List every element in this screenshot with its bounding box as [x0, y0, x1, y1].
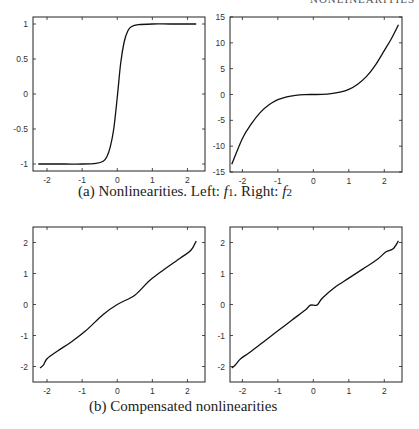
y-tick-label: 0	[23, 89, 28, 99]
plot-f1: -2-1012-1-0.500.51	[0, 0, 210, 185]
chart-f1: -2-1012-1-0.500.51	[0, 0, 210, 185]
x-tick-label: -2	[43, 175, 51, 185]
y-tick-label: 0.5	[16, 54, 28, 64]
caption-a: (a) Nonlinearities. Left: f1. Right: f2	[78, 183, 292, 200]
y-tick-label: -1	[20, 331, 28, 341]
y-tick-label: 1	[220, 269, 225, 279]
y-tick-label: -15	[213, 167, 226, 177]
y-tick-label: -1	[217, 331, 225, 341]
x-tick-label: -2	[43, 386, 51, 396]
y-tick-label: 5	[220, 64, 225, 74]
data-curve	[232, 25, 399, 165]
caption-b: (b) Compensated nonlinearities	[89, 398, 277, 415]
data-curve	[40, 241, 196, 368]
y-tick-label: 2	[23, 238, 28, 248]
plot-compensated-f2: -2-1012-2-1012	[197, 210, 419, 400]
caption-a-mid: . Right:	[233, 183, 282, 199]
x-tick-label: 2	[382, 386, 387, 396]
f2-subscript: 2	[286, 186, 292, 198]
x-tick-label: 0	[311, 176, 316, 185]
y-tick-label: 0	[220, 300, 225, 310]
y-tick-label: 0	[23, 300, 28, 310]
plot-f2: -2-1012-15-10-5051015	[197, 0, 419, 185]
chart-f2: -2-1012-15-10-5051015	[197, 0, 419, 185]
caption-a-prefix: (a) Nonlinearities. Left:	[78, 183, 224, 199]
y-tick-label: -2	[20, 362, 28, 372]
y-tick-label: -10	[213, 141, 226, 151]
x-tick-label: 1	[346, 176, 351, 185]
y-tick-label: 10	[216, 38, 226, 48]
data-curve	[38, 24, 196, 164]
y-tick-label: 1	[23, 269, 28, 279]
y-tick-label: 0	[220, 90, 225, 100]
x-tick-label: 1	[346, 386, 351, 396]
chart-compensated-f2: -2-1012-2-1012	[197, 210, 419, 400]
axes-box	[33, 17, 205, 171]
x-tick-label: 0	[311, 386, 316, 396]
data-curve	[232, 241, 399, 368]
y-tick-label: -5	[217, 115, 225, 125]
y-tick-label: -1	[20, 159, 28, 169]
x-tick-label: -1	[274, 386, 282, 396]
plot-compensated-f1: -2-1012-2-1012	[0, 210, 210, 400]
axes-box	[230, 227, 402, 382]
x-tick-label: 0	[115, 386, 120, 396]
y-tick-label: -0.5	[13, 124, 28, 134]
x-tick-label: -2	[239, 386, 247, 396]
x-tick-label: 1	[150, 386, 155, 396]
x-tick-label: 2	[185, 386, 190, 396]
x-tick-label: -1	[78, 386, 86, 396]
y-tick-label: 15	[216, 12, 226, 22]
y-tick-label: -2	[217, 362, 225, 372]
y-tick-label: 1	[23, 19, 28, 29]
chart-compensated-f1: -2-1012-2-1012	[0, 210, 210, 400]
axes-box	[33, 227, 205, 382]
y-tick-label: 2	[220, 238, 225, 248]
x-tick-label: 2	[382, 176, 387, 185]
